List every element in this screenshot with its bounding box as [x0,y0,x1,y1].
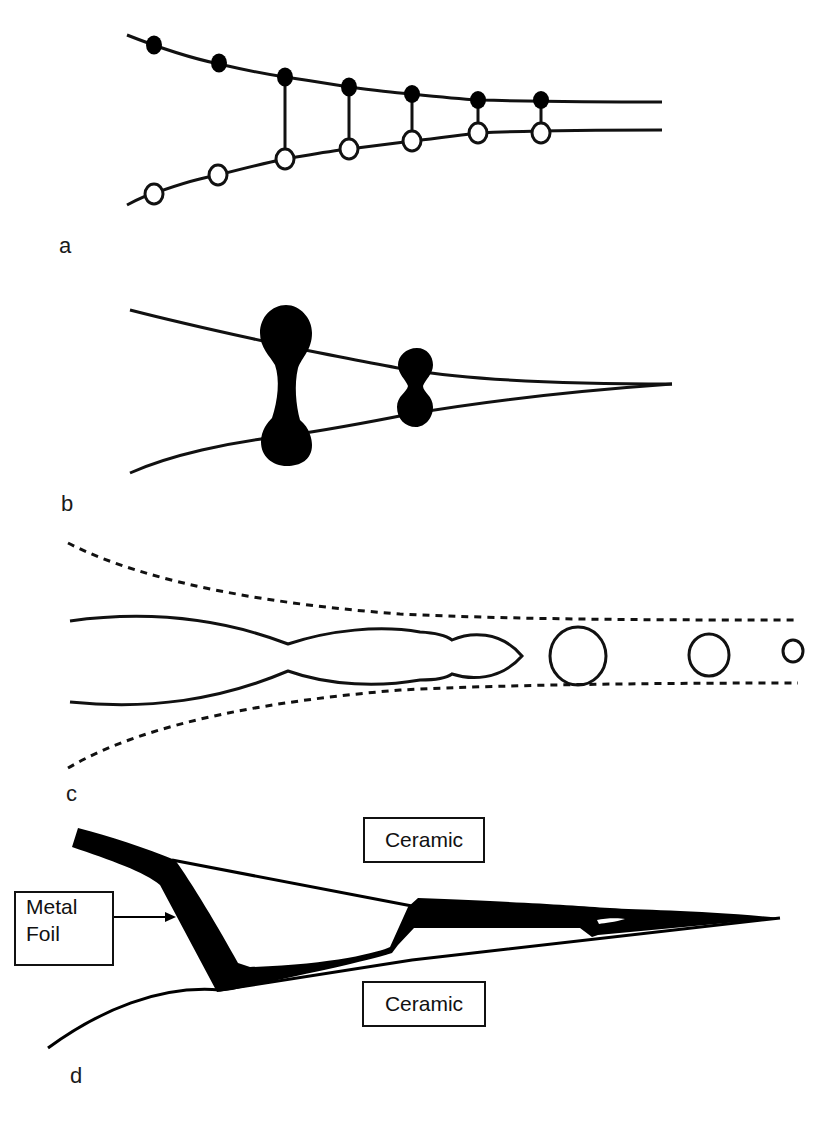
panel-label-b: b [61,491,73,517]
isolated-pore-large [550,627,606,685]
metal-foil-label: Metal Foil [14,891,114,966]
panel-label-c: c [66,781,77,807]
metal-foil-arrow-head [165,912,176,922]
ceramic-top-label: Ceramic [363,817,485,863]
upper-ceramic-surface [172,860,412,906]
panel-c-crack-bubbles [68,543,803,768]
large-ductile-ligament [260,305,312,466]
crack-bridging-diagram [0,0,839,1121]
ceramic-bottom-text: Ceramic [385,990,463,1017]
metal-foil-text-line1: Metal [26,893,77,920]
crack-outline [70,616,522,704]
metal-foil-text-line2: Foil [26,920,60,947]
panel-label-a: a [59,233,71,259]
panel-b-ligaments [130,305,672,473]
panel-label-d: d [70,1063,82,1089]
isolated-pore-medium [689,634,729,676]
panel-a-atomic-bonds [127,35,662,205]
small-ductile-ligament [397,348,433,427]
ceramic-bottom-label: Ceramic [362,981,486,1027]
upper-process-zone-boundary [68,543,798,620]
lower-crack-surface [127,130,662,205]
lower-process-zone-boundary [68,683,798,768]
ceramic-top-text: Ceramic [385,826,463,853]
upper-crack-surface [127,35,662,102]
isolated-pore-small [783,640,803,662]
